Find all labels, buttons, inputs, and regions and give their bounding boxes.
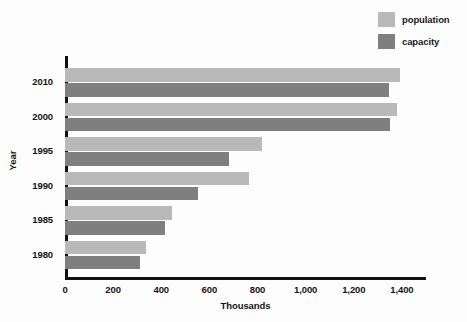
x-tick-label-1400: 1,400: [390, 284, 413, 295]
y-tick-label-1980: 1980: [32, 249, 53, 260]
x-axis-title: Thousands: [65, 300, 426, 311]
bar-group-2000: [65, 103, 426, 132]
legend-entry-capacity: capacity: [378, 34, 450, 49]
bar-population-1980: [65, 241, 146, 255]
bar-group-1995: [65, 137, 426, 166]
y-tick-label-1985: 1985: [32, 214, 53, 225]
y-axis-title: Year: [7, 141, 18, 181]
bar-capacity-1990: [65, 187, 198, 201]
legend-entry-population: population: [378, 12, 450, 27]
bar-population-2010: [65, 68, 400, 82]
y-tick-label-1995: 1995: [32, 145, 53, 156]
x-tick-label-600: 600: [202, 284, 218, 295]
y-tick-label-2010: 2010: [32, 76, 53, 87]
bar-group-1985: [65, 206, 426, 235]
y-tick-label-1990: 1990: [32, 180, 53, 191]
legend-swatch-capacity: [378, 34, 395, 49]
x-axis-title-text: Thousands: [221, 300, 271, 311]
legend-swatch-population: [378, 12, 395, 27]
bar-group-1980: [65, 241, 426, 270]
legend-label-capacity: capacity: [402, 36, 439, 47]
x-tick-label-1000: 1,000: [294, 284, 317, 295]
bar-population-1990: [65, 172, 249, 186]
x-tick-label-800: 800: [250, 284, 266, 295]
bar-chart: population capacity 20102000199519901985…: [0, 0, 467, 322]
bar-group-1990: [65, 172, 426, 201]
bar-capacity-2000: [65, 118, 390, 132]
bar-population-1995: [65, 137, 262, 151]
bar-capacity-1995: [65, 152, 229, 166]
bar-population-1985: [65, 206, 172, 220]
x-tick-label-0: 0: [62, 284, 67, 295]
x-axis-tick-labels: 02004006008001,0001,2001,400: [0, 284, 467, 298]
x-tick-label-1200: 1,200: [342, 284, 365, 295]
legend-label-population: population: [402, 14, 450, 25]
bar-group-2010: [65, 68, 426, 97]
bar-capacity-2010: [65, 83, 389, 97]
plot-area: [65, 57, 426, 278]
x-tick-label-200: 200: [105, 284, 121, 295]
bar-population-2000: [65, 103, 397, 117]
x-tick-label-400: 400: [153, 284, 169, 295]
y-tick-label-2000: 2000: [32, 111, 53, 122]
chart-legend: population capacity: [378, 12, 450, 49]
bar-capacity-1985: [65, 221, 165, 235]
bar-capacity-1980: [65, 256, 140, 270]
